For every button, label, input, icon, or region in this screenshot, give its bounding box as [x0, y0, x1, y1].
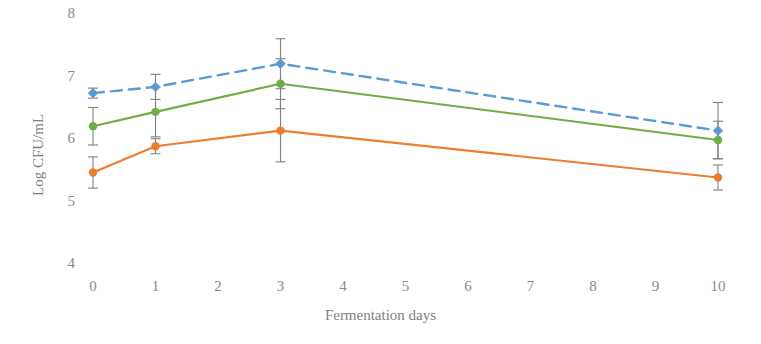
- chart-figure: Log CFU/mL Fermentation days 01234567891…: [0, 0, 761, 344]
- data-point-marker: [88, 88, 98, 98]
- series-line-series-orange: [93, 131, 718, 178]
- y-tick-label: 8: [45, 5, 75, 22]
- data-point-marker: [276, 80, 284, 88]
- x-tick-label: 5: [386, 278, 426, 295]
- x-tick-label: 3: [261, 278, 301, 295]
- data-point-marker: [713, 125, 723, 135]
- x-tick-label: 8: [573, 278, 613, 295]
- data-point-marker: [150, 82, 160, 92]
- x-tick-label: 7: [511, 278, 551, 295]
- data-point-marker: [151, 108, 159, 116]
- data-point-marker: [89, 168, 97, 176]
- x-tick-label: 9: [636, 278, 676, 295]
- x-tick-label: 2: [198, 278, 238, 295]
- x-tick-label: 0: [73, 278, 113, 295]
- y-tick-label: 5: [45, 193, 75, 210]
- x-tick-label: 4: [323, 278, 363, 295]
- x-tick-label: 6: [448, 278, 488, 295]
- x-tick-label: 10: [698, 278, 738, 295]
- data-point-marker: [275, 59, 285, 69]
- y-tick-label: 6: [45, 130, 75, 147]
- data-point-marker: [714, 173, 722, 181]
- y-axis-title: Log CFU/mL: [30, 114, 47, 196]
- data-point-marker: [89, 122, 97, 130]
- data-point-marker: [276, 126, 284, 134]
- series-line-series-blue: [93, 64, 718, 131]
- y-tick-label: 7: [45, 68, 75, 85]
- x-axis-title: Fermentation days: [0, 307, 761, 324]
- y-tick-label: 4: [45, 255, 75, 272]
- series-line-series-green: [93, 84, 718, 140]
- x-tick-label: 1: [136, 278, 176, 295]
- data-point-marker: [151, 142, 159, 150]
- data-point-marker: [714, 136, 722, 144]
